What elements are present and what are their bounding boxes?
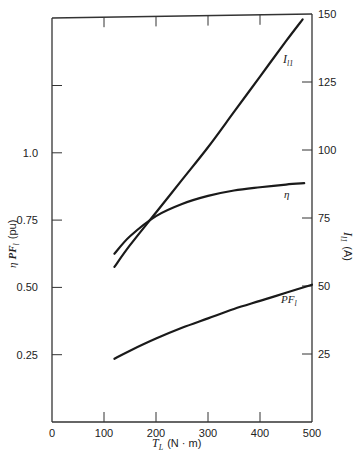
chart-svg: 01002003004005000.250.500.751.0255075100… — [0, 0, 356, 459]
tick-labels: 01002003004005000.250.500.751.0255075100… — [17, 8, 337, 439]
efficiency-curve — [114, 183, 304, 254]
y-left-tick-label: 1.0 — [23, 147, 38, 159]
ticks — [52, 15, 312, 422]
y-right-tick-label: 125 — [318, 76, 336, 88]
y-left-tick-label: 0.75 — [17, 214, 38, 226]
y-right-tick-label: 50 — [318, 280, 330, 292]
y-left-tick-label: 0.25 — [17, 349, 38, 361]
x-tick-label: 300 — [199, 427, 217, 439]
series-label-efficiency: η — [284, 188, 289, 200]
y-left-tick-label: 0.50 — [17, 281, 38, 293]
plot-frame — [52, 14, 312, 422]
y-axis-right-label: Il1(A) — [339, 231, 355, 261]
series-label-current: Il1 — [282, 52, 293, 68]
x-tick-label: 500 — [303, 427, 321, 439]
y-right-tick-label: 25 — [318, 348, 330, 360]
series-label-power-factor: PFl — [280, 293, 297, 308]
y-right-tick-label: 150 — [318, 8, 336, 20]
x-tick-label: 0 — [49, 427, 55, 439]
current-curve — [114, 19, 302, 267]
y-axis-left-label: ηPFl(pu) — [6, 220, 21, 268]
x-tick-label: 400 — [251, 427, 269, 439]
y-right-tick-label: 100 — [318, 144, 336, 156]
x-tick-label: 100 — [95, 427, 113, 439]
y-right-tick-label: 75 — [318, 212, 330, 224]
top-axis — [52, 14, 312, 18]
curves — [114, 19, 312, 358]
